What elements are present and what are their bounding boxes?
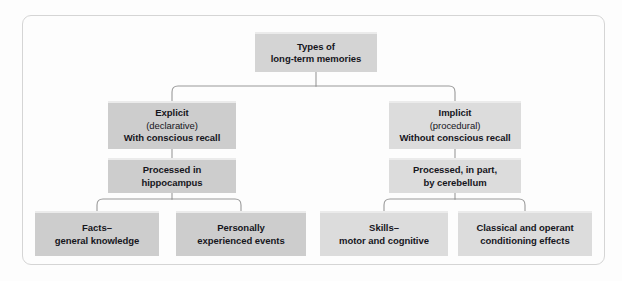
node-line: Facts– <box>38 222 156 234</box>
node-line: Processed in <box>111 164 233 176</box>
node-line: long-term memories <box>258 53 374 65</box>
node-facts-general-knowledge: Facts– general knowledge <box>35 211 159 256</box>
node-label-group: Types of long-term memories <box>255 41 377 66</box>
node-line: With conscious recall <box>111 132 233 144</box>
node-line: general knowledge <box>38 235 156 247</box>
node-processed-by-cerebellum: Processed, in part, by cerebellum <box>389 158 521 193</box>
node-skills-motor-and-cognitive: Skills– motor and cognitive <box>320 211 448 256</box>
node-line: motor and cognitive <box>323 235 445 247</box>
node-classical-and-operant-conditioning-effects: Classical and operant conditioning effec… <box>458 211 592 256</box>
node-line: Without conscious recall <box>392 132 518 144</box>
node-explicit: Explicit (declarative) With conscious re… <box>108 101 236 149</box>
node-label-group: Explicit (declarative) With conscious re… <box>108 107 236 144</box>
node-line: Implicit <box>392 107 518 119</box>
node-line: Processed, in part, <box>392 164 518 176</box>
node-label-group: Classical and operant conditioning effec… <box>458 222 592 247</box>
node-line: Types of <box>258 41 374 53</box>
node-line: (declarative) <box>111 120 233 132</box>
node-personally-experienced-events: Personally experienced events <box>176 211 306 256</box>
node-line: Skills– <box>323 222 445 234</box>
node-line: experienced events <box>179 235 303 247</box>
node-line: Personally <box>179 222 303 234</box>
node-line: by cerebellum <box>392 177 518 189</box>
node-label-group: Personally experienced events <box>176 222 306 247</box>
node-line: (procedural) <box>392 120 518 132</box>
node-line: Explicit <box>111 107 233 119</box>
node-label-group: Facts– general knowledge <box>35 222 159 247</box>
node-processed-in-hippocampus: Processed in hippocampus <box>108 158 236 193</box>
node-line: conditioning effects <box>461 235 589 247</box>
node-implicit: Implicit (procedural) Without conscious … <box>389 101 521 149</box>
node-label-group: Processed, in part, by cerebellum <box>389 164 521 189</box>
node-line: hippocampus <box>111 177 233 189</box>
node-label-group: Skills– motor and cognitive <box>320 222 448 247</box>
memory-types-diagram: Types of long-term memories Explicit (de… <box>0 0 622 281</box>
node-types-of-long-term-memories: Types of long-term memories <box>255 32 377 72</box>
node-line: Classical and operant <box>461 222 589 234</box>
node-label-group: Implicit (procedural) Without conscious … <box>389 107 521 144</box>
node-label-group: Processed in hippocampus <box>108 164 236 189</box>
